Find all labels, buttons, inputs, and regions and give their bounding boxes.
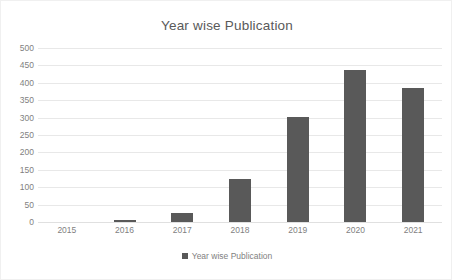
bar[interactable] bbox=[114, 220, 136, 222]
gridline bbox=[38, 222, 442, 223]
chart-container: Year wise Publication 050100150200250300… bbox=[0, 0, 452, 280]
y-tick-label: 350 bbox=[20, 95, 34, 105]
y-tick-label: 50 bbox=[25, 200, 34, 210]
bar[interactable] bbox=[229, 179, 251, 222]
x-tick-label: 2018 bbox=[231, 225, 250, 235]
bar[interactable] bbox=[344, 70, 366, 222]
x-tick-label: 2020 bbox=[346, 225, 365, 235]
bar-slot bbox=[211, 48, 269, 222]
y-tick-label: 150 bbox=[20, 165, 34, 175]
bar-slot bbox=[96, 48, 154, 222]
x-tick-label: 2019 bbox=[288, 225, 307, 235]
x-tick-label: 2016 bbox=[115, 225, 134, 235]
x-tick-label: 2021 bbox=[404, 225, 423, 235]
bar-series bbox=[38, 48, 442, 222]
bar-slot bbox=[153, 48, 211, 222]
x-tick-label: 2017 bbox=[173, 225, 192, 235]
bar-slot bbox=[327, 48, 385, 222]
x-axis: 2015201620172018201920202021 bbox=[38, 225, 442, 239]
y-tick-label: 450 bbox=[20, 60, 34, 70]
bar-slot bbox=[38, 48, 96, 222]
bar[interactable] bbox=[402, 88, 424, 222]
y-tick-label: 0 bbox=[29, 217, 34, 227]
y-tick-label: 100 bbox=[20, 182, 34, 192]
legend-label: Year wise Publication bbox=[192, 251, 272, 261]
bar-slot bbox=[269, 48, 327, 222]
y-tick-label: 300 bbox=[20, 113, 34, 123]
chart-legend: Year wise Publication bbox=[1, 251, 452, 261]
y-tick-label: 250 bbox=[20, 130, 34, 140]
bar-slot bbox=[384, 48, 442, 222]
bar[interactable] bbox=[171, 213, 193, 222]
y-tick-label: 500 bbox=[20, 43, 34, 53]
chart-title: Year wise Publication bbox=[1, 18, 452, 33]
legend-swatch-icon bbox=[182, 253, 188, 259]
y-axis: 050100150200250300350400450500 bbox=[1, 48, 34, 222]
y-tick-label: 200 bbox=[20, 147, 34, 157]
x-tick-label: 2015 bbox=[57, 225, 76, 235]
bar[interactable] bbox=[287, 117, 309, 222]
y-tick-label: 400 bbox=[20, 78, 34, 88]
